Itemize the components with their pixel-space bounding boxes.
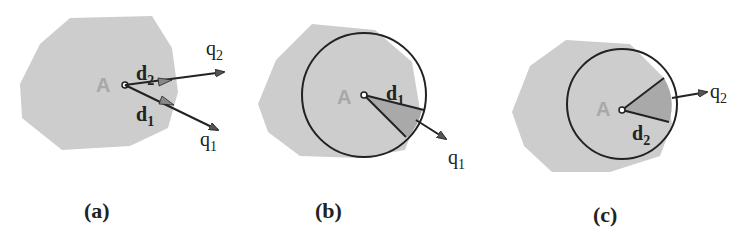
point-a xyxy=(619,107,625,113)
point-a xyxy=(361,92,367,98)
panel-a: A d2 q2 d1 q1 (a) xyxy=(20,16,224,223)
caption-c: (c) xyxy=(593,202,617,227)
panel-b: A d1 q1 (b) xyxy=(258,24,465,223)
vector-q1 xyxy=(416,120,446,139)
svg-text:q1: q1 xyxy=(448,146,465,172)
caption-b: (b) xyxy=(315,198,342,223)
svg-text:q2: q2 xyxy=(710,80,727,106)
point-a-label: A xyxy=(96,74,110,96)
point-a-label: A xyxy=(596,98,610,120)
caption-a: (a) xyxy=(84,198,110,223)
point-a-label: A xyxy=(337,86,351,108)
figure-canvas: A d2 q2 d1 q1 (a) A d1 q1 (b) A xyxy=(0,0,754,248)
svg-text:q2: q2 xyxy=(206,37,223,63)
panel-c: A d2 q2 (c) xyxy=(512,40,727,227)
svg-text:q1: q1 xyxy=(200,128,217,154)
